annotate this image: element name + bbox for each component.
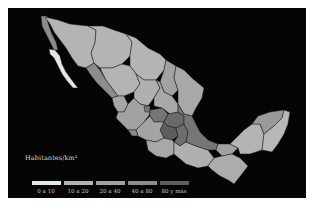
region-guerrero[interactable] (146, 138, 174, 158)
legend-label: 40 a 80 (132, 188, 153, 194)
legend-swatch (64, 181, 93, 185)
legend-label: 10 a 20 (68, 188, 89, 194)
mexico-choropleth-map (8, 8, 306, 198)
legend-swatch (96, 181, 125, 185)
region-chiapas[interactable] (208, 154, 248, 184)
legend-swatch (32, 181, 61, 185)
legend-label: 0 a 10 (37, 188, 54, 194)
legend-item-0-10: 0 a 10 (32, 181, 60, 194)
region-aguascalientes[interactable] (144, 106, 150, 112)
map-panel: Habitantes/km² 0 a 10 10 a 20 20 a 40 40… (8, 8, 306, 198)
legend-title: Habitantes/km² (25, 154, 78, 162)
legend-item-20-40: 20 a 40 (96, 181, 124, 194)
legend-label: 20 a 40 (100, 188, 121, 194)
legend: 0 a 10 10 a 20 20 a 40 40 a 80 80 y más (32, 181, 188, 194)
region-colima[interactable] (128, 130, 138, 136)
legend-label: 80 y más (162, 188, 187, 194)
legend-swatch (128, 181, 157, 185)
legend-item-10-20: 10 a 20 (64, 181, 92, 194)
legend-swatch (160, 181, 189, 185)
legend-item-80-mas: 80 y más (160, 181, 188, 194)
legend-item-40-80: 40 a 80 (128, 181, 156, 194)
